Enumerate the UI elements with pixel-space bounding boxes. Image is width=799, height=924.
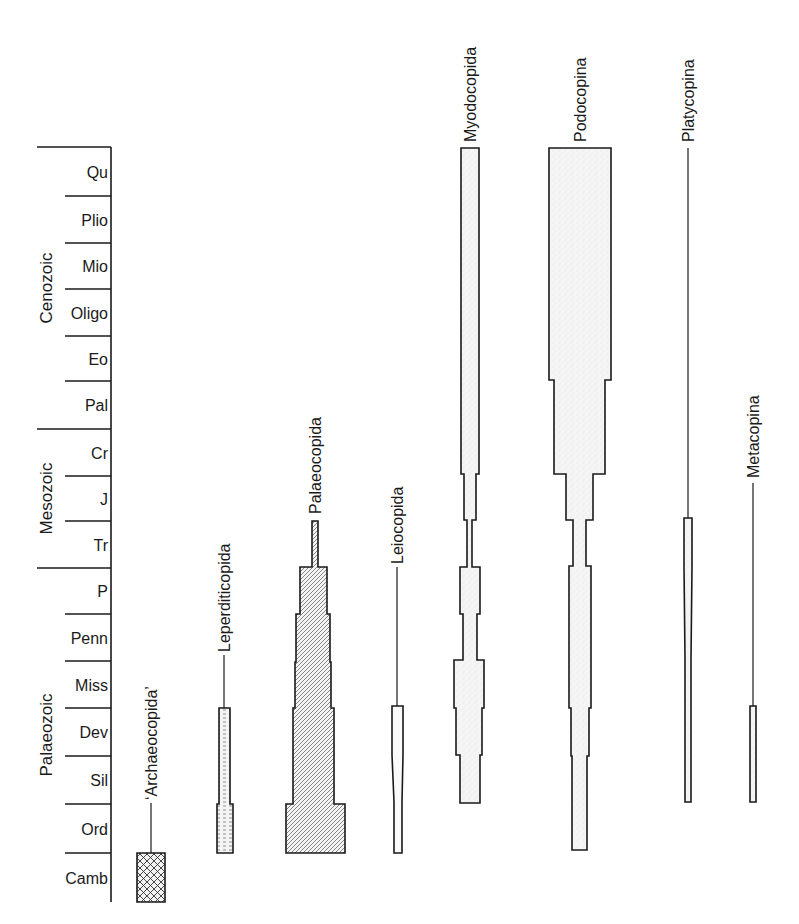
era-label: Cenozoic xyxy=(37,252,56,323)
taxon-range: Metacopina xyxy=(745,395,762,802)
period-label: Eo xyxy=(88,351,108,368)
taxon-label: Palaeocopida xyxy=(307,417,324,514)
period-label: Ord xyxy=(81,821,108,838)
range-bar xyxy=(392,706,403,853)
range-bar xyxy=(750,706,756,802)
range-chart-svg: CenozoicMesozoicPalaeozoicQuPlioMioOligo… xyxy=(0,0,799,924)
period-label: Tr xyxy=(93,537,108,554)
period-label: Miss xyxy=(75,677,108,694)
period-label: Sil xyxy=(90,772,108,789)
time-scale-axis: CenozoicMesozoicPalaeozoicQuPlioMioOligo… xyxy=(37,147,111,902)
period-label: P xyxy=(97,583,108,600)
taxon-label: Leperditicopida xyxy=(216,543,233,652)
period-label: J xyxy=(100,491,108,508)
taxon-range: Palaeocopida xyxy=(286,417,345,853)
period-label: Oligo xyxy=(71,305,108,322)
taxa-ranges: ‘Archaeocopida’LeperditicopidaPalaeocopi… xyxy=(137,47,762,902)
taxon-range: Leiocopida xyxy=(389,487,406,854)
period-label: Camb xyxy=(65,870,108,887)
era-label: Palaeozoic xyxy=(37,693,56,777)
period-label: Plio xyxy=(81,212,108,229)
taxon-range: Platycopina xyxy=(680,59,697,802)
range-bar xyxy=(286,521,345,853)
taxon-range: Myodocopida xyxy=(454,47,484,803)
period-label: Cr xyxy=(91,445,109,462)
taxon-label: Metacopina xyxy=(745,395,762,478)
period-label: Penn xyxy=(71,630,108,647)
range-bar xyxy=(549,148,611,850)
taxon-label: Platycopina xyxy=(680,59,697,142)
range-bar xyxy=(217,708,233,853)
period-label: Qu xyxy=(87,164,108,181)
taxon-range: Leperditicopida xyxy=(216,543,233,853)
range-bar xyxy=(137,853,165,902)
taxon-label: Podocopina xyxy=(572,57,589,142)
range-bar xyxy=(684,518,692,802)
range-bar xyxy=(454,148,484,803)
ostracod-range-chart: CenozoicMesozoicPalaeozoicQuPlioMioOligo… xyxy=(0,0,799,924)
taxon-range: ‘Archaeocopida’ xyxy=(137,686,165,902)
taxon-label: ‘Archaeocopida’ xyxy=(143,686,160,800)
period-label: Pal xyxy=(85,397,108,414)
taxon-range: Podocopina xyxy=(549,57,611,850)
taxon-label: Leiocopida xyxy=(389,487,406,565)
era-label: Mesozoic xyxy=(37,462,56,534)
period-label: Dev xyxy=(80,724,108,741)
period-label: Mio xyxy=(82,258,108,275)
taxon-label: Myodocopida xyxy=(462,47,479,142)
